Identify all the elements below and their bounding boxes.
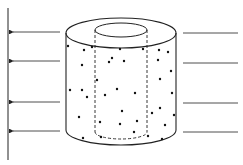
particle-dot bbox=[159, 78, 161, 80]
particle-dot bbox=[136, 120, 138, 122]
particle-dot bbox=[116, 88, 118, 90]
particle-dot bbox=[164, 124, 166, 126]
particle-dot bbox=[123, 60, 125, 62]
particle-dot bbox=[78, 116, 80, 118]
particle-dot bbox=[81, 64, 83, 66]
particle-dot bbox=[91, 46, 93, 48]
particle-dot bbox=[67, 45, 69, 47]
particle-dot bbox=[83, 49, 85, 51]
particle-dot bbox=[121, 110, 123, 112]
particle-dot bbox=[159, 107, 161, 109]
inner-cylinder bbox=[95, 23, 147, 139]
left-arrows-group bbox=[13, 32, 60, 131]
particle-dot bbox=[119, 123, 121, 125]
particle-dot bbox=[134, 92, 136, 94]
particle-dot bbox=[157, 59, 159, 61]
particle-dot bbox=[170, 70, 172, 72]
particle-dot bbox=[111, 57, 113, 59]
particle-dot bbox=[161, 138, 163, 140]
particle-dot bbox=[173, 114, 175, 116]
particle-dot bbox=[108, 61, 110, 63]
particle-dot bbox=[133, 131, 135, 133]
particle-dot bbox=[96, 79, 98, 81]
particle-dot bbox=[81, 89, 83, 91]
particles-group bbox=[67, 45, 175, 140]
particle-dot bbox=[100, 136, 102, 138]
particle-dot bbox=[151, 112, 153, 114]
particle-dot bbox=[147, 135, 149, 137]
particle-dot bbox=[142, 48, 144, 50]
particle-dot bbox=[69, 89, 71, 91]
particle-dot bbox=[104, 94, 106, 96]
particle-dot bbox=[86, 96, 88, 98]
particle-dot bbox=[99, 121, 101, 123]
particle-dot bbox=[82, 137, 84, 139]
inner-top-ellipse bbox=[95, 23, 147, 37]
particle-dot bbox=[158, 49, 160, 51]
right-field-lines-group bbox=[183, 33, 238, 132]
particle-dot bbox=[167, 51, 169, 53]
particle-dot bbox=[171, 92, 173, 94]
hollow-cylinder-diagram bbox=[0, 0, 243, 165]
particle-dot bbox=[119, 48, 121, 50]
inner-bottom-dashed-arc bbox=[95, 132, 147, 139]
